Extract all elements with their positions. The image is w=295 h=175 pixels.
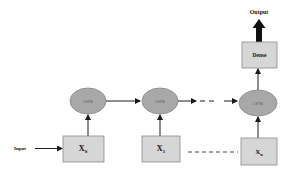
input-label: Input: [14, 146, 26, 151]
dense-label: Dense: [252, 52, 267, 58]
lstm-cell-n: LSTM: [239, 90, 277, 116]
lstm-cell-1: LSTM: [70, 88, 106, 114]
lstm-cell-2: LSTM: [142, 88, 178, 114]
lstm-cell-label: LSTM: [83, 100, 92, 104]
input-box-xn: Xn: [241, 138, 277, 165]
input-box-x1: X1: [142, 136, 180, 162]
output-arrow-icon: [253, 19, 266, 42]
lstm-diagram: Output Dense LSTM LSTM LSTM Input X0: [0, 0, 295, 175]
dense-layer-box: Dense: [242, 42, 277, 68]
lstm-cell-label: LSTM: [155, 100, 164, 104]
output-label: Output: [250, 9, 269, 15]
lstm-cell-label: LSTM: [253, 102, 262, 106]
input-box-x0: X0: [63, 136, 104, 162]
